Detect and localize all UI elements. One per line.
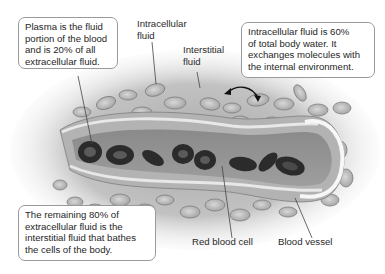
callout-plasma-line: Plasma is the fluid xyxy=(25,21,111,33)
callout-intracellular-line: the internal environment. xyxy=(248,61,368,73)
red-blood-cell xyxy=(194,150,216,170)
label-red-blood-cell: Red blood cell xyxy=(192,236,253,248)
callout-intracellular-line: exchanges molecules with xyxy=(248,49,368,61)
callout-interstitial: The remaining 80% of extracellular fluid… xyxy=(18,205,156,261)
callout-plasma: Plasma is the fluid portion of the blood… xyxy=(18,17,118,69)
callout-plasma-line: extracellular fluid. xyxy=(25,56,111,68)
callout-interstitial-line: interstitial fluid that bathes xyxy=(25,232,149,244)
red-blood-cell xyxy=(172,144,194,164)
callout-interstitial-line: the cells of the body. xyxy=(25,244,149,256)
callout-interstitial-line: The remaining 80% of xyxy=(25,209,149,221)
label-line: Intracellular xyxy=(137,18,187,30)
callout-plasma-line: portion of the blood xyxy=(25,33,111,45)
label-interstitial-fluid: Interstitial fluid xyxy=(183,44,224,67)
callout-intracellular-line: of total body water. It xyxy=(248,38,368,50)
label-line: fluid xyxy=(137,30,187,42)
callout-intracellular-line: Intracellular fluid is 60% xyxy=(248,26,368,38)
callout-intracellular: Intracellular fluid is 60% of total body… xyxy=(241,22,375,78)
callout-interstitial-line: extracellular fluid is the xyxy=(25,221,149,233)
label-blood-vessel: Blood vessel xyxy=(278,236,332,248)
label-line: Interstitial xyxy=(183,44,224,56)
red-blood-cell xyxy=(78,141,102,163)
red-blood-cell xyxy=(106,145,134,165)
label-intracellular-fluid: Intracellular fluid xyxy=(137,18,187,41)
callout-plasma-line: and is 20% of all xyxy=(25,44,111,56)
label-line: fluid xyxy=(183,56,224,68)
